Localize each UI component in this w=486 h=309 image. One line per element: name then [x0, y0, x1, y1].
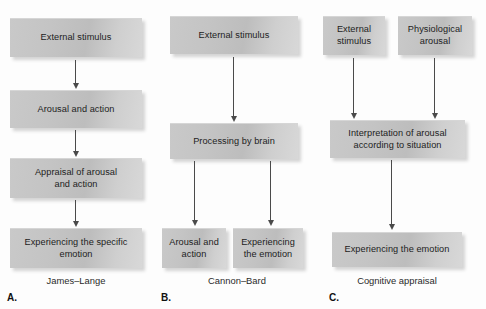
panel-b-box-3-line1: Arousal and — [166, 237, 222, 249]
panel-c-box-physiological-arousal: Physiological arousal — [398, 16, 472, 55]
panel-b-box-external-stimulus: External stimulus — [170, 16, 298, 54]
panel-c-box-4-text: Experiencing the emotion — [336, 244, 458, 256]
panel-b-box-4-line1: Experiencing — [237, 237, 299, 249]
panel-c-box-3-line2: according to situation — [334, 140, 461, 152]
panel-c-arrow-to-emotion — [391, 160, 392, 225]
panel-c-box-1-line1: External — [327, 24, 381, 36]
panel-b-caption: Cannon–Bard — [170, 275, 304, 286]
panel-b-box-4-line2: the emotion — [237, 249, 299, 261]
panel-a-caption: James–Lange — [10, 275, 142, 286]
panel-a-box-1-text: External stimulus — [14, 32, 138, 44]
panel-a-box-arousal-and-action: Arousal and action — [10, 90, 142, 128]
panel-b-box-arousal-and-action: Arousal and action — [162, 228, 226, 268]
panel-a-box-appraisal: Appraisal of arousal and action — [10, 158, 142, 198]
panel-b-letter: B. — [161, 292, 171, 303]
panel-a-arrow-3 — [75, 200, 76, 222]
panel-c-box-external-stimulus: External stimulus — [323, 16, 385, 55]
panel-b-arrow-left — [194, 161, 195, 221]
panel-b-box-processing-by-brain: Processing by brain — [170, 123, 298, 159]
emotion-theories-diagram: External stimulus Arousal and action App… — [0, 0, 486, 309]
panel-c-arrow-from-arousal — [434, 58, 435, 114]
panel-b-box-3-line2: action — [166, 249, 222, 261]
panel-c-box-1-line2: stimulus — [327, 36, 381, 48]
panel-b-arrow-1 — [233, 57, 234, 117]
panel-a-box-experiencing: Experiencing the specific emotion — [10, 228, 142, 268]
panel-a-arrow-1 — [75, 60, 76, 84]
panel-a-box-3-line1: Appraisal of arousal — [14, 167, 138, 179]
panel-c-box-2-line2: arousal — [402, 36, 468, 48]
panel-b-box-1-text: External stimulus — [174, 30, 294, 42]
panel-a-box-4-line2: emotion — [14, 249, 138, 261]
panel-a-arrow-2 — [75, 130, 76, 152]
panel-c-box-interpretation: Interpretation of arousal according to s… — [330, 120, 465, 158]
panel-c-box-2-line1: Physiological — [402, 24, 468, 36]
panel-a-box-3-line2: and action — [14, 179, 138, 191]
panel-c-box-3-line1: Interpretation of arousal — [334, 128, 461, 140]
panel-b-arrow-right — [270, 161, 271, 221]
panel-c-caption: Cognitive appraisal — [332, 275, 462, 286]
panel-a-box-4-line1: Experiencing the specific — [14, 237, 138, 249]
panel-b-box-experiencing-the-emotion: Experiencing the emotion — [233, 228, 303, 268]
panel-b-box-2-text: Processing by brain — [174, 136, 294, 148]
panel-c-letter: C. — [329, 292, 339, 303]
panel-c-arrow-from-stimulus — [353, 58, 354, 114]
panel-a-letter: A. — [7, 292, 17, 303]
panel-a-box-external-stimulus: External stimulus — [10, 18, 142, 57]
panel-c-box-experiencing-the-emotion: Experiencing the emotion — [332, 232, 462, 267]
panel-a-box-2-text: Arousal and action — [14, 104, 138, 116]
